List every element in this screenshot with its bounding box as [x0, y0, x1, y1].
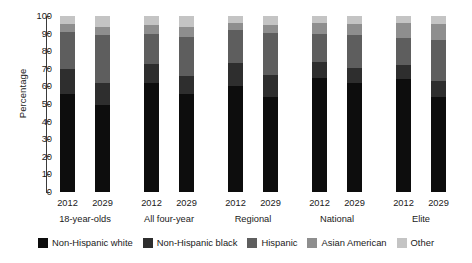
bar-all-four-year-2012[interactable] [144, 16, 159, 192]
segment-non-hispanic-white [179, 94, 194, 192]
segment-non-hispanic-white [60, 94, 75, 192]
stacked-bar-chart: Percentage 0102030405060708090100 201220… [0, 0, 472, 263]
bar-all-four-year-2029[interactable] [179, 16, 194, 192]
segment-non-hispanic-black [95, 83, 110, 105]
y-tick-mark [46, 174, 50, 175]
x-year-label: 2012 [303, 198, 337, 208]
x-year-label: 2012 [219, 198, 253, 208]
segment-other [228, 16, 243, 23]
segment-other [263, 16, 278, 25]
y-tick-mark [46, 16, 50, 17]
segment-other [95, 16, 110, 27]
y-tick-mark [46, 139, 50, 140]
legend-label: Non-Hispanic white [52, 237, 133, 248]
segment-non-hispanic-black [396, 65, 411, 79]
segment-other [431, 16, 446, 24]
legend-label: Asian American [321, 237, 386, 248]
legend-label: Hispanic [261, 237, 297, 248]
y-tick-mark [46, 68, 50, 69]
segment-other [144, 16, 159, 25]
segment-asian-american [95, 27, 110, 36]
chart-legend: Non-Hispanic whiteNon-Hispanic blackHisp… [0, 237, 472, 248]
segment-non-hispanic-black [228, 63, 243, 86]
segment-hispanic [396, 38, 411, 65]
y-tick-mark [46, 33, 50, 34]
legend-item-non-hispanic-black[interactable]: Non-Hispanic black [143, 237, 238, 248]
segment-hispanic [431, 40, 446, 81]
x-year-label: 2012 [135, 198, 169, 208]
legend-label: Other [411, 237, 434, 248]
y-tick-mark [46, 121, 50, 122]
segment-asian-american [396, 23, 411, 38]
x-year-label: 2012 [387, 198, 421, 208]
segment-asian-american [347, 24, 362, 35]
segment-non-hispanic-black [179, 76, 194, 94]
plot-area: 0102030405060708090100 [46, 16, 466, 192]
bar-regional-2012[interactable] [228, 16, 243, 192]
segment-non-hispanic-white [312, 78, 327, 192]
x-year-label: 2029 [338, 198, 372, 208]
y-tick-mark [46, 51, 50, 52]
segment-asian-american [179, 27, 194, 37]
segment-non-hispanic-black [60, 69, 75, 95]
y-tick-mark [46, 156, 50, 157]
segment-non-hispanic-white [347, 83, 362, 192]
y-tick-mark [46, 192, 50, 193]
segment-non-hispanic-black [431, 81, 446, 97]
segment-other [396, 16, 411, 23]
segment-other [347, 16, 362, 24]
x-year-label: 2029 [254, 198, 288, 208]
bar-national-2012[interactable] [312, 16, 327, 192]
x-year-label: 2029 [422, 198, 456, 208]
segment-asian-american [263, 25, 278, 33]
segment-other [179, 16, 194, 27]
segment-asian-american [144, 25, 159, 34]
legend-label: Non-Hispanic black [157, 237, 238, 248]
segment-non-hispanic-white [431, 97, 446, 192]
segment-non-hispanic-white [263, 97, 278, 192]
segment-non-hispanic-black [263, 75, 278, 97]
segment-asian-american [431, 24, 446, 40]
x-year-label: 2012 [51, 198, 85, 208]
segment-non-hispanic-black [144, 64, 159, 83]
legend-item-hispanic[interactable]: Hispanic [247, 237, 297, 248]
segment-hispanic [95, 35, 110, 83]
segment-non-hispanic-white [396, 79, 411, 192]
segment-other [312, 16, 327, 23]
legend-item-asian-american[interactable]: Asian American [307, 237, 386, 248]
bar-18-year-olds-2029[interactable] [95, 16, 110, 192]
legend-item-other[interactable]: Other [397, 237, 434, 248]
segment-hispanic [347, 35, 362, 68]
segment-asian-american [228, 23, 243, 30]
segment-hispanic [312, 34, 327, 62]
segment-hispanic [263, 33, 278, 75]
y-tick-mark [46, 86, 50, 87]
segment-hispanic [144, 34, 159, 64]
segment-non-hispanic-white [95, 105, 110, 192]
legend-swatch-icon [397, 238, 407, 248]
legend-swatch-icon [143, 238, 153, 248]
bar-elite-2012[interactable] [396, 16, 411, 192]
segment-asian-american [312, 23, 327, 34]
legend-swatch-icon [247, 238, 257, 248]
segment-asian-american [60, 24, 75, 32]
segment-non-hispanic-white [144, 83, 159, 192]
segment-hispanic [179, 37, 194, 76]
segment-non-hispanic-black [312, 62, 327, 78]
segment-hispanic [60, 32, 75, 69]
bar-regional-2029[interactable] [263, 16, 278, 192]
segment-non-hispanic-white [228, 86, 243, 192]
segment-hispanic [228, 30, 243, 63]
bar-elite-2029[interactable] [431, 16, 446, 192]
y-tick-mark [46, 104, 50, 105]
bar-national-2029[interactable] [347, 16, 362, 192]
segment-other [60, 16, 75, 24]
legend-item-non-hispanic-white[interactable]: Non-Hispanic white [38, 237, 133, 248]
x-year-label: 2029 [86, 198, 120, 208]
legend-swatch-icon [38, 238, 48, 248]
bar-18-year-olds-2012[interactable] [60, 16, 75, 192]
segment-non-hispanic-black [347, 68, 362, 83]
legend-swatch-icon [307, 238, 317, 248]
x-group-label-elite: Elite [371, 214, 471, 224]
x-year-label: 2029 [170, 198, 204, 208]
